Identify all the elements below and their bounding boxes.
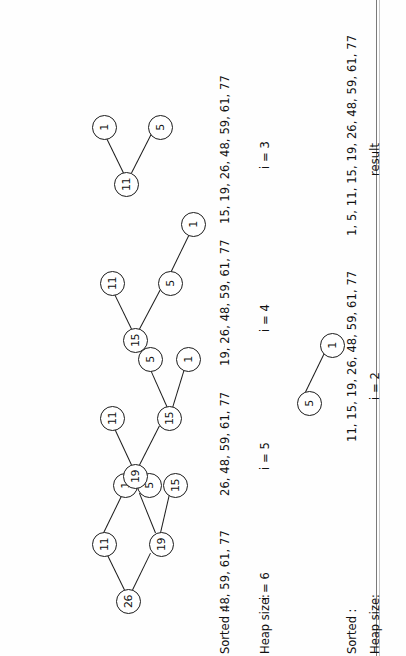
heap-size-key-row-1: Heap size: [258, 594, 272, 654]
tree-edge-26-19 [132, 553, 151, 590]
tree-node: 1 [176, 347, 201, 372]
page-bottom-rule [376, 0, 377, 656]
sorted-list-result: 1, 5, 11, 15, 19, 26, 48, 59, 61, 77 [345, 35, 359, 236]
sorted-list-i2: 11, 15, 19, 26, 48, 59, 61, 77 [345, 271, 359, 442]
iteration-label-result: result [368, 143, 382, 176]
iteration-label-i5: i = 5 [258, 442, 272, 470]
tree-edge-5-1b [305, 353, 325, 392]
tree-node: 1 [320, 333, 345, 358]
heap-size-key-row-2: Heap size: [368, 594, 382, 654]
tree-node: 11 [114, 172, 139, 197]
tree-node: 26 [116, 589, 141, 614]
tree-edge-15-1 [172, 366, 186, 408]
tree-node: 5 [148, 115, 173, 140]
tree-edge-19-5 [139, 493, 156, 533]
tree-edge-19-15 [160, 491, 171, 533]
sorted-key-row-1: Sorted : [218, 609, 232, 654]
tree-edge-19-15b [139, 426, 160, 466]
sorted-key-row-2: Sorted : [345, 609, 359, 654]
tree-edge-15-11 [112, 290, 132, 329]
tree-node: 5 [297, 391, 322, 416]
tree-node: 19 [149, 532, 174, 557]
tree-node: 11 [92, 532, 117, 557]
page-bottom-rule-shadow [379, 0, 380, 656]
iteration-label-i4: i = 4 [258, 304, 272, 332]
tree-node: 11 [100, 406, 125, 431]
tree-node: 1 [92, 115, 117, 140]
tree-node: 15 [163, 473, 188, 498]
tree-edge-5-1 [170, 232, 191, 273]
tree-node: 5 [158, 271, 183, 296]
scanned-page-rotator: 26 11 19 1 5 15 48, 59, 61, 77 i = 6 19 … [0, 0, 406, 656]
tree-edge-11-1 [103, 494, 123, 533]
tree-node: 1 [181, 212, 206, 237]
iteration-label-i3: i = 3 [258, 141, 272, 169]
tree-node: 11 [100, 271, 125, 296]
iteration-label-i2: i = 2 [368, 372, 382, 400]
tree-node: 15 [157, 406, 182, 431]
tree-edge-19-11 [113, 426, 132, 465]
sorted-list-i4: 19, 26, 48, 59, 61, 77 [218, 239, 232, 366]
sorted-list-i5: 26, 48, 59, 61, 77 [218, 392, 232, 496]
tree-node: 19 [123, 464, 148, 489]
tree-edge-26-11 [106, 553, 125, 590]
sorted-list-i6: 48, 59, 61, 77 [218, 530, 232, 612]
sorted-list-i3: 15, 19, 26, 48, 59, 61, 77 [218, 75, 232, 224]
scanned-page: 26 11 19 1 5 15 48, 59, 61, 77 i = 6 19 … [0, 0, 406, 656]
tree-edge-11-5b [131, 134, 152, 174]
tree-edge-15-5 [150, 369, 168, 408]
tree-edge-15-5b [139, 290, 161, 329]
tree-node: 15 [123, 328, 148, 353]
